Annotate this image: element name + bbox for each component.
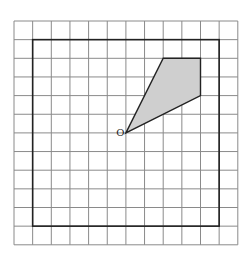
point-o-label: O [116,127,124,138]
grid-diagram: O [0,0,248,260]
